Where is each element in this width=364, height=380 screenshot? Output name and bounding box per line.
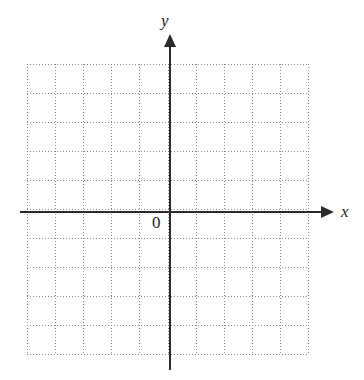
grid-line-vertical bbox=[308, 64, 309, 354]
grid-line-vertical bbox=[196, 64, 197, 354]
grid-line-vertical bbox=[27, 64, 28, 354]
x-axis-label: x bbox=[341, 203, 349, 220]
origin-label: 0 bbox=[152, 214, 161, 231]
y-axis-arrowhead-icon bbox=[164, 34, 176, 47]
grid-line-horizontal bbox=[27, 325, 308, 326]
grid-line-vertical bbox=[252, 64, 253, 354]
coordinate-plane-figure: y x 0 bbox=[0, 0, 364, 380]
dotted-grid bbox=[27, 64, 308, 354]
grid-line-horizontal bbox=[27, 180, 308, 181]
grid-line-horizontal bbox=[27, 354, 308, 355]
grid-line-horizontal bbox=[27, 296, 308, 297]
grid-line-horizontal bbox=[27, 209, 308, 210]
grid-horizontal-lines bbox=[27, 64, 308, 354]
grid-line-vertical bbox=[139, 64, 140, 354]
grid-line-vertical bbox=[280, 64, 281, 354]
y-axis-label: y bbox=[161, 12, 169, 29]
x-axis-line bbox=[20, 211, 323, 213]
grid-line-horizontal bbox=[27, 238, 308, 239]
grid-line-vertical bbox=[224, 64, 225, 354]
grid-line-horizontal bbox=[27, 151, 308, 152]
grid-line-vertical bbox=[55, 64, 56, 354]
y-axis-line bbox=[169, 46, 171, 370]
grid-line-horizontal bbox=[27, 64, 308, 65]
grid-line-horizontal bbox=[27, 93, 308, 94]
grid-vertical-lines bbox=[27, 64, 308, 354]
grid-line-horizontal bbox=[27, 267, 308, 268]
grid-line-horizontal bbox=[27, 122, 308, 123]
grid-line-vertical bbox=[83, 64, 84, 354]
x-axis-arrowhead-icon bbox=[321, 206, 334, 218]
grid-line-vertical bbox=[111, 64, 112, 354]
